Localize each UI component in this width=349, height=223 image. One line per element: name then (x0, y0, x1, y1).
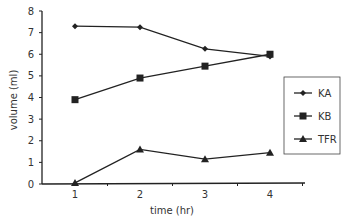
x-tick-label: 4 (267, 189, 273, 200)
series-kb (72, 51, 274, 103)
y-tick-label: 8 (28, 6, 34, 17)
legend-label: KA (318, 88, 331, 99)
legend-label: TFR (317, 134, 337, 145)
y-tick-label: 5 (28, 70, 34, 81)
diamond-marker-icon (72, 23, 78, 29)
y-tick-label: 6 (28, 49, 34, 60)
square-marker-icon (267, 51, 274, 58)
triangle-marker-icon (71, 179, 79, 186)
series-ka (72, 23, 273, 59)
y-tick-label: 4 (28, 92, 34, 103)
y-tick-label: 1 (28, 157, 34, 168)
y-tick-label: 3 (28, 114, 34, 125)
line-chart: 0123456781234time (hr)volume (ml) KAKBTF… (0, 0, 349, 223)
x-tick-label: 1 (72, 189, 78, 200)
series-line (75, 149, 270, 183)
series-line (75, 54, 270, 99)
series-group (71, 23, 274, 186)
x-tick-label: 3 (202, 189, 208, 200)
square-marker-icon (202, 63, 209, 70)
y-tick-label: 0 (28, 179, 34, 190)
triangle-marker-icon (136, 145, 144, 152)
diamond-marker-icon (202, 46, 208, 52)
y-axis-title: volume (ml) (8, 70, 19, 131)
y-tick-label: 7 (28, 27, 34, 38)
y-tick-label: 2 (28, 135, 34, 146)
axes: 0123456781234time (hr)volume (ml) (8, 6, 305, 217)
series-line (75, 26, 270, 56)
diamond-marker-icon (137, 24, 143, 30)
triangle-marker-icon (266, 149, 274, 156)
x-axis (42, 183, 305, 184)
legend-label: KB (318, 111, 332, 122)
square-marker-icon (72, 96, 79, 103)
x-axis-title: time (hr) (150, 205, 194, 216)
square-marker-icon (300, 113, 307, 120)
series-tfr (71, 145, 274, 186)
legend: KAKBTFR (284, 77, 340, 154)
square-marker-icon (137, 75, 144, 82)
x-tick-label: 2 (137, 189, 143, 200)
